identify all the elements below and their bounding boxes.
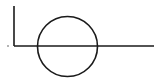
- origin-dot: [7, 45, 9, 47]
- diagram-canvas: [0, 0, 162, 83]
